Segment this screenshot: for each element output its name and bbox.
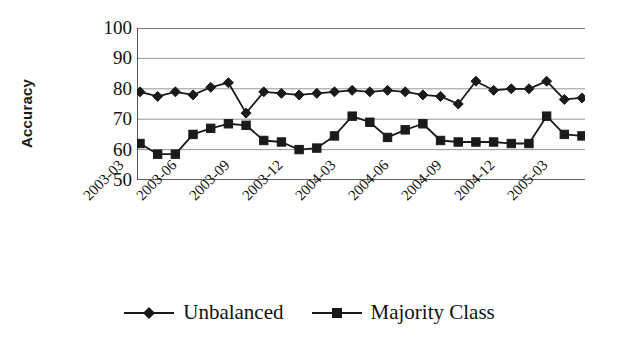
- legend-item-2[interactable]: Majority Class: [310, 300, 495, 325]
- data-point: [489, 85, 499, 95]
- chart-legend: UnbalancedMajority Class: [0, 300, 617, 325]
- data-point: [365, 87, 375, 97]
- data-point: [188, 90, 198, 100]
- data-point: [295, 145, 303, 153]
- y-axis-title-label: Accuracy: [19, 78, 36, 147]
- data-point: [153, 150, 161, 158]
- data-point: [313, 144, 321, 152]
- data-point: [489, 138, 497, 146]
- data-point: [137, 87, 145, 97]
- data-point: [206, 82, 216, 92]
- data-point: [224, 120, 232, 128]
- data-point: [436, 91, 446, 101]
- y-tick-label: 80: [80, 79, 132, 98]
- legend-label: Unbalanced: [183, 300, 283, 325]
- series-1: [137, 76, 585, 118]
- y-tick-label: 60: [80, 140, 132, 159]
- plot-area: [137, 28, 585, 180]
- data-point: [506, 84, 516, 94]
- data-point: [524, 84, 534, 94]
- data-point: [400, 87, 410, 97]
- diamond-marker-icon: [122, 304, 176, 322]
- data-point: [242, 121, 250, 129]
- y-tick-label: 70: [80, 109, 132, 128]
- data-point: [366, 118, 374, 126]
- data-point: [472, 138, 480, 146]
- data-point: [329, 87, 339, 97]
- data-point: [153, 91, 163, 101]
- data-point: [277, 138, 285, 146]
- series-line: [140, 81, 582, 113]
- data-point: [330, 132, 338, 140]
- data-point: [260, 136, 268, 144]
- data-point: [137, 139, 144, 147]
- data-point: [189, 130, 197, 138]
- chart-figure: Accuracy 5060708090100 2003-032003-06200…: [0, 0, 617, 351]
- data-point: [276, 88, 286, 98]
- data-point: [171, 150, 179, 158]
- data-point: [542, 112, 550, 120]
- data-point: [578, 132, 585, 140]
- data-point: [418, 90, 428, 100]
- y-axis-title: Accuracy: [14, 38, 40, 188]
- data-point: [348, 112, 356, 120]
- data-point: [312, 88, 322, 98]
- data-point: [383, 85, 393, 95]
- data-point: [170, 87, 180, 97]
- data-point: [419, 120, 427, 128]
- data-point: [507, 139, 515, 147]
- legend-item-1[interactable]: Unbalanced: [122, 300, 283, 325]
- data-point: [454, 138, 462, 146]
- y-tick-label: 90: [80, 48, 132, 67]
- data-point: [560, 130, 568, 138]
- data-point: [347, 85, 357, 95]
- data-point: [294, 90, 304, 100]
- data-point: [401, 126, 409, 134]
- data-point: [383, 133, 391, 141]
- square-marker-icon: [310, 304, 364, 322]
- data-point: [577, 93, 585, 103]
- data-point: [207, 124, 215, 132]
- legend-label: Majority Class: [371, 300, 495, 325]
- data-point: [223, 78, 233, 88]
- series-line: [140, 116, 582, 154]
- plot-svg: [137, 28, 585, 180]
- data-point: [436, 136, 444, 144]
- data-point: [525, 139, 533, 147]
- y-tick-label: 100: [80, 18, 132, 37]
